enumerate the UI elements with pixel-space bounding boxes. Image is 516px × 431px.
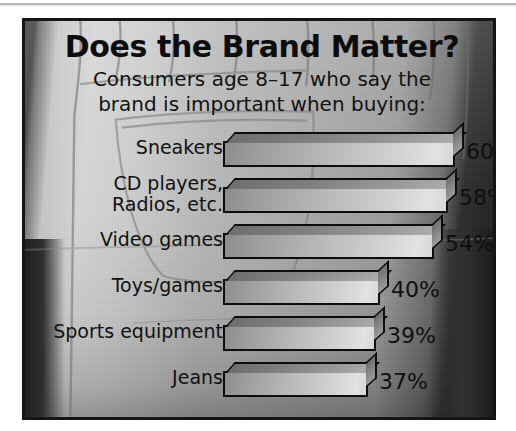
bar-value-label: 60% <box>466 139 496 164</box>
bar-row: Sports equipment 39% <box>25 313 496 359</box>
bar-shape <box>223 371 368 397</box>
bar-shape <box>223 233 434 259</box>
chart-figure: Does the Brand Matter? Consumers age 8–1… <box>22 18 496 420</box>
bar-top-face <box>225 362 380 373</box>
bar-shape <box>223 325 376 351</box>
bar-value-label: 37% <box>379 369 428 394</box>
bar-row: Sneakers 60% <box>25 129 496 175</box>
bar-label: Jeans <box>27 367 223 388</box>
bar-value-label: 58% <box>459 185 496 210</box>
page-top-rule-shadow <box>0 5 516 6</box>
bar-row: CD players, Radios, etc. 58% <box>25 175 496 221</box>
bar-label: CD players, Radios, etc. <box>27 173 223 215</box>
bar-value-label: 54% <box>445 231 494 256</box>
chart-subtitle-line-1: Consumers age 8–17 who say the <box>47 67 477 92</box>
bar-row: Jeans 37% <box>25 359 496 405</box>
chart-title: Does the Brand Matter? <box>25 29 496 64</box>
bar-top-face <box>225 224 446 235</box>
chart-subtitle-line-2: brand is important when buying: <box>47 92 477 117</box>
bar-chart: Sneakers 60% CD players, Radios, etc. 58… <box>25 129 496 419</box>
bar-shape <box>223 279 380 305</box>
bar-row: Video games 54% <box>25 221 496 267</box>
bar-label: Sports equipment <box>27 321 223 342</box>
bar-value-label: 39% <box>387 323 436 348</box>
bar-top-face <box>225 270 392 281</box>
bar-label: Toys/games <box>27 275 223 296</box>
bar-shape <box>223 187 448 213</box>
bar-shape <box>223 141 455 167</box>
bar-top-face <box>225 178 460 189</box>
bar-value-label: 40% <box>391 277 440 302</box>
bar-row: Toys/games 40% <box>25 267 496 313</box>
bar-label: Video games <box>27 229 223 250</box>
bar-label: Sneakers <box>27 137 223 158</box>
bar-top-face <box>225 316 388 327</box>
screenshot-root: Does the Brand Matter? Consumers age 8–1… <box>0 0 516 431</box>
bar-top-face <box>225 132 467 143</box>
chart-subtitle: Consumers age 8–17 who say the brand is … <box>47 67 477 117</box>
